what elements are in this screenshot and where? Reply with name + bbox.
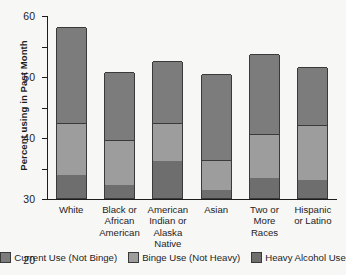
x-axis-label-line: American [95, 227, 143, 238]
y-axis-line [47, 16, 48, 199]
stacked-bar [104, 73, 135, 199]
bar-segment [153, 123, 182, 161]
bar-segment [105, 72, 134, 140]
bar-group [104, 16, 135, 199]
x-axis-label-line: Two or [240, 204, 288, 215]
y-tick-mark: 30 [42, 108, 47, 109]
y-tick-mark: 50 [42, 47, 47, 48]
y-tick-mark: 0 [42, 199, 47, 200]
legend-label: Heavy Alcohol Use [265, 252, 346, 263]
stacked-bar [56, 28, 87, 199]
bar-segment [57, 27, 86, 123]
bar-segment [202, 74, 231, 159]
y-tick-label: 40 [23, 132, 35, 144]
y-tick-mark: 20 [42, 138, 47, 139]
bar-group [152, 16, 183, 199]
x-axis-label-line: or Latino [289, 215, 337, 226]
legend-label: Current Use (Not Binge) [14, 252, 117, 263]
legend-item[interactable]: Binge Use (Not Heavy) [128, 252, 240, 263]
x-axis-label-line: More [240, 215, 288, 226]
x-axis-label-line: Native [144, 238, 192, 249]
x-axis-label-line: Indian or [144, 215, 192, 226]
bar-segment [202, 190, 231, 198]
legend-swatch-icon [251, 252, 262, 263]
x-axis-line [47, 199, 337, 200]
bar-segment [105, 140, 134, 185]
bar-segment [105, 185, 134, 198]
x-axis-label-line: Alaska [144, 227, 192, 238]
bar-group [56, 16, 87, 199]
x-axis-label-line: Hispanic [289, 204, 337, 215]
bar-segment [250, 54, 279, 134]
y-tick-label: 50 [23, 71, 35, 83]
y-axis-title: Percent using in Past Month [18, 21, 29, 191]
stacked-bar [249, 55, 280, 199]
stacked-bar-chart: Percent using in Past Month 010203040506… [0, 0, 346, 275]
bar-segment [298, 125, 327, 180]
y-tick-mark: 60 [42, 16, 47, 17]
legend-label: Binge Use (Not Heavy) [142, 252, 240, 263]
stacked-bar [297, 68, 328, 199]
legend-item[interactable]: Heavy Alcohol Use [251, 252, 346, 263]
chart-legend: Current Use (Not Binge)Binge Use (Not He… [0, 252, 346, 263]
bar-group [249, 16, 280, 199]
bar-group [297, 16, 328, 199]
y-tick-mark: 10 [42, 169, 47, 170]
bar-segment [298, 67, 327, 125]
x-axis-label: Hispanicor Latino [289, 204, 337, 227]
legend-item[interactable]: Current Use (Not Binge) [0, 252, 117, 263]
bar-segment [153, 61, 182, 124]
stacked-bar [201, 75, 232, 199]
bar-segment [57, 175, 86, 198]
plot-area: 0102030405060 WhiteBlack orAfricanAmeric… [47, 16, 337, 199]
bar-segment [250, 178, 279, 198]
x-axis-label: Two orMoreRaces [240, 204, 288, 238]
legend-swatch-icon [0, 252, 11, 263]
x-axis-label-line: American [144, 204, 192, 215]
x-axis-label: AmericanIndian orAlaskaNative [144, 204, 192, 250]
x-axis-label-line: White [47, 204, 95, 215]
bar-segment [298, 180, 327, 198]
bar-segment [202, 160, 231, 191]
stacked-bar [152, 62, 183, 199]
x-axis-label: White [47, 204, 95, 215]
bar-segment [153, 161, 182, 198]
x-axis-label: Black orAfricanAmerican [95, 204, 143, 238]
y-tick-mark: 40 [42, 77, 47, 78]
bar-group [201, 16, 232, 199]
bar-segment [57, 123, 86, 175]
bar-segment [250, 134, 279, 178]
x-axis-label-line: Races [240, 227, 288, 238]
x-axis-label: Asian [192, 204, 240, 215]
legend-swatch-icon [128, 252, 139, 263]
x-axis-label-line: Asian [192, 204, 240, 215]
x-axis-label-line: African [95, 215, 143, 226]
x-axis-label-line: Black or [95, 204, 143, 215]
y-tick-label: 30 [23, 193, 35, 205]
y-tick-label: 60 [23, 10, 35, 22]
